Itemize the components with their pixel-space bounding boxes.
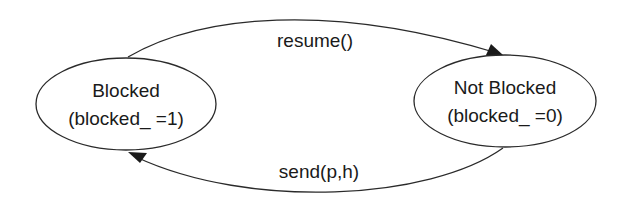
transition-resume-arrowhead: [486, 44, 503, 55]
transition-send-label: send(p,h): [279, 161, 359, 182]
state-blocked-shape: [36, 58, 216, 150]
state-not-blocked: Not Blocked (blocked_ =0): [414, 55, 596, 147]
transition-send-arrowhead: [128, 152, 147, 163]
state-blocked-detail: (blocked_ =1): [68, 108, 184, 130]
transition-resume-label: resume(): [277, 30, 353, 51]
state-diagram: resume() send(p,h) Blocked (blocked_ =1)…: [0, 0, 620, 206]
transition-resume: resume(): [128, 20, 503, 57]
state-not-blocked-shape: [414, 55, 596, 147]
state-not-blocked-detail: (blocked_ =0): [447, 105, 563, 127]
transition-send: send(p,h): [128, 148, 503, 192]
state-not-blocked-name: Not Blocked: [454, 77, 556, 98]
state-blocked: Blocked (blocked_ =1): [36, 58, 216, 150]
state-blocked-name: Blocked: [92, 80, 160, 101]
